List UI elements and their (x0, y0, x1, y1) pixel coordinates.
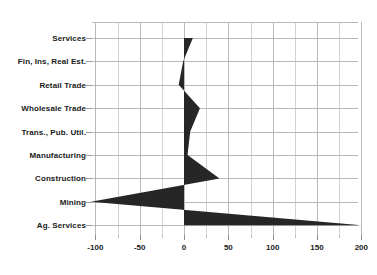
x-tick-label-50: 50 (224, 243, 233, 252)
x-tick-mark (95, 235, 96, 240)
gridline-x-minor (339, 22, 340, 235)
gridline-y (92, 178, 358, 179)
chart-container: ServicesFin, Ins, Real Est.Retail TradeW… (0, 0, 377, 275)
gridline-x-100 (273, 22, 274, 235)
plot-area (92, 22, 358, 235)
category-leader-line (86, 178, 92, 179)
gridline-x-minor (162, 22, 163, 235)
x-tick-mark (361, 235, 362, 240)
category-label-wholesale-trade: Wholesale Trade (21, 104, 86, 113)
gridline-y (92, 85, 358, 86)
category-label-mining: Mining (60, 197, 86, 206)
gridline-y (92, 132, 358, 133)
gridline-y (92, 108, 358, 109)
category-label-ag-services: Ag. Services (37, 221, 86, 230)
gridline-y (92, 38, 358, 39)
x-tick-mark-minor (295, 235, 296, 238)
x-tick-mark (228, 235, 229, 240)
gridline-x-neg100 (95, 22, 96, 235)
category-label-services: Services (52, 34, 86, 43)
gridline-x-minor (118, 22, 119, 235)
x-tick-mark-minor (339, 235, 340, 238)
x-tick-label-0: 0 (182, 243, 186, 252)
gridline-x-minor (206, 22, 207, 235)
category-leader-line (86, 61, 92, 62)
x-tick-mark-minor (118, 235, 119, 238)
category-leader-line (86, 85, 92, 86)
x-tick-mark (273, 235, 274, 240)
gridline-y (92, 155, 358, 156)
category-label-trans-pub-util: Trans., Pub. Util. (22, 127, 86, 136)
category-label-fin-ins-real-est: Fin, Ins, Real Est. (18, 57, 86, 66)
x-tick-mark (140, 235, 141, 240)
gridline-y-top (92, 22, 358, 23)
gridline-x-minor (251, 22, 252, 235)
gridline-y (92, 202, 358, 203)
category-leader-line (86, 202, 92, 203)
category-leader-line (86, 225, 92, 226)
x-tick-mark-minor (251, 235, 252, 238)
category-label-construction: Construction (35, 174, 86, 183)
gridline-y (92, 61, 358, 62)
category-label-manufacturing: Manufacturing (30, 151, 86, 160)
x-tick-label-neg50: -50 (134, 243, 146, 252)
x-tick-label-100: 100 (266, 243, 279, 252)
category-label-retail-trade: Retail Trade (39, 80, 86, 89)
gridline-x-50 (228, 22, 229, 235)
x-tick-mark-minor (162, 235, 163, 238)
x-tick-mark-minor (206, 235, 207, 238)
gridline-x-150 (317, 22, 318, 235)
category-leader-line (86, 132, 92, 133)
gridline-y (92, 225, 358, 226)
gridline-x-200 (361, 22, 362, 235)
x-tick-mark (317, 235, 318, 240)
gridline-x-neg50 (140, 22, 141, 235)
x-tick-label-200: 200 (355, 243, 368, 252)
x-tick-label-150: 150 (310, 243, 323, 252)
category-leader-line (86, 155, 92, 156)
x-tick-mark (184, 235, 185, 240)
gridline-x-minor (295, 22, 296, 235)
category-leader-line (86, 38, 92, 39)
x-tick-label-neg100: -100 (87, 243, 103, 252)
category-leader-line (86, 108, 92, 109)
gridline-x-0 (184, 22, 185, 235)
